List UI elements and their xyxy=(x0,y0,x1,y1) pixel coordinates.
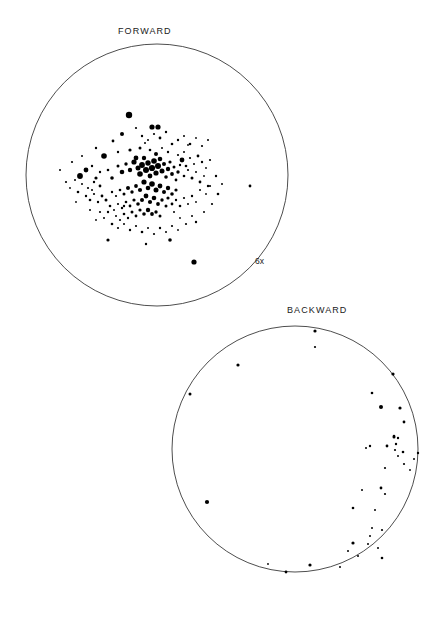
data-point xyxy=(111,191,113,193)
data-point xyxy=(89,209,91,211)
data-point xyxy=(308,563,311,566)
data-point xyxy=(119,189,122,192)
data-point xyxy=(171,143,174,146)
data-point xyxy=(139,147,142,150)
data-point xyxy=(185,165,188,168)
data-point xyxy=(126,186,130,190)
data-point xyxy=(129,205,132,208)
data-point xyxy=(209,159,211,161)
data-point xyxy=(205,500,209,504)
data-point xyxy=(380,487,383,490)
data-point xyxy=(132,198,135,201)
data-point xyxy=(149,165,155,171)
data-point xyxy=(175,199,177,201)
data-point xyxy=(160,169,165,174)
data-point xyxy=(71,161,73,163)
data-point xyxy=(117,227,119,229)
data-point xyxy=(93,193,95,195)
plot-canvas xyxy=(0,0,447,619)
backward-plot-title: BACKWARD xyxy=(287,305,347,315)
data-point xyxy=(154,210,157,213)
data-point xyxy=(377,547,379,549)
data-point xyxy=(173,166,176,169)
data-point xyxy=(179,205,182,208)
data-point xyxy=(369,445,371,447)
data-point xyxy=(413,458,415,460)
data-point xyxy=(176,170,179,173)
data-point xyxy=(165,231,167,233)
data-point xyxy=(162,162,166,166)
data-point xyxy=(149,149,152,152)
data-point xyxy=(129,229,131,231)
data-point xyxy=(195,137,197,139)
data-point xyxy=(201,145,203,147)
data-point xyxy=(369,535,371,537)
data-point xyxy=(403,463,405,465)
data-point xyxy=(166,186,170,190)
data-point xyxy=(195,171,197,173)
data-point xyxy=(167,151,169,153)
data-point xyxy=(121,207,123,209)
data-point xyxy=(158,157,163,162)
data-point xyxy=(99,185,102,188)
data-point xyxy=(137,171,143,177)
data-point xyxy=(69,187,71,189)
data-point xyxy=(168,238,172,242)
data-point xyxy=(152,196,157,201)
data-point xyxy=(107,211,109,213)
data-point xyxy=(154,188,159,193)
data-point xyxy=(77,173,83,179)
data-point xyxy=(151,158,157,164)
data-point xyxy=(140,198,144,202)
data-point xyxy=(171,225,173,227)
data-point xyxy=(384,493,386,495)
data-point xyxy=(403,421,406,424)
data-point xyxy=(144,194,149,199)
data-point xyxy=(173,211,175,213)
data-point xyxy=(187,203,189,205)
data-point xyxy=(145,160,150,165)
data-point xyxy=(180,158,185,163)
data-point xyxy=(125,201,128,204)
data-point xyxy=(170,192,174,196)
data-point xyxy=(199,181,202,184)
data-point xyxy=(147,227,149,229)
backward-plot-boundary-circle xyxy=(172,326,418,572)
data-point xyxy=(112,140,115,143)
data-point xyxy=(201,161,203,163)
data-point xyxy=(386,445,389,448)
data-point xyxy=(139,162,145,168)
data-point xyxy=(249,185,252,188)
data-point xyxy=(130,190,133,193)
data-point xyxy=(142,156,146,160)
data-point xyxy=(191,177,194,180)
data-point xyxy=(177,154,179,156)
data-point xyxy=(136,202,140,206)
data-point xyxy=(221,183,223,185)
data-point xyxy=(149,181,155,187)
data-point xyxy=(203,175,205,177)
data-point xyxy=(394,449,396,451)
data-point xyxy=(111,223,114,226)
data-point xyxy=(313,329,316,332)
data-point xyxy=(193,163,195,165)
data-point xyxy=(142,212,146,216)
data-point xyxy=(203,211,205,213)
data-point xyxy=(101,195,104,198)
data-point xyxy=(314,346,316,348)
data-point xyxy=(166,196,169,199)
data-point xyxy=(379,405,383,409)
data-point xyxy=(109,205,112,208)
data-point xyxy=(339,566,341,568)
data-point xyxy=(120,170,125,175)
data-point xyxy=(138,208,141,211)
data-point xyxy=(144,142,146,144)
data-point xyxy=(154,152,158,156)
data-point xyxy=(74,179,76,181)
data-point xyxy=(168,160,171,163)
data-point xyxy=(285,571,288,574)
data-point xyxy=(128,168,132,172)
data-point xyxy=(183,135,185,137)
data-point xyxy=(85,195,87,197)
data-point xyxy=(81,183,83,185)
